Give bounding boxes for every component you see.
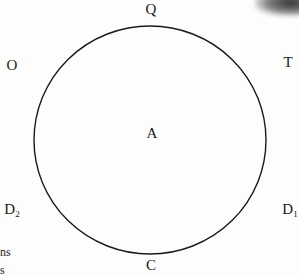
point-label-q: Q xyxy=(146,2,157,19)
center-label-a: A xyxy=(147,126,158,141)
point-label-d2: D2 xyxy=(4,202,19,219)
point-label-t: T xyxy=(283,55,292,72)
point-label-o: O xyxy=(7,58,18,75)
cropped-margin-text: s xyxy=(0,264,5,276)
point-label-c: C xyxy=(146,258,156,275)
point-label-d1: D1 xyxy=(282,202,297,219)
cropped-margin-text: ns xyxy=(0,246,11,258)
